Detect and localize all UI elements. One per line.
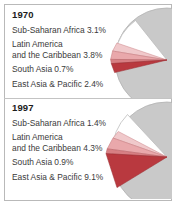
legend-text-1970: 1970 Sub-Saharan Africa 3.1% Latin Ameri…: [12, 4, 116, 89]
legend-entry-east-asia-pacific-1970: East Asia & Pacific 2.4%: [12, 79, 116, 89]
legend-text-1997: 1997 Sub-Saharan Africa 1.4% Latin Ameri…: [12, 99, 116, 182]
wedge-east-asia-pacific-1970: [111, 60, 167, 73]
disc-background-1997: [112, 102, 177, 201]
wedge-latin-america-1970: [111, 51, 167, 60]
legend-entry-south-asia-1997: South Asia 0.9%: [12, 157, 116, 167]
panel-year-1970: 1970: [12, 9, 116, 21]
disc-cut-arc-1970: [115, 20, 167, 60]
legend-entry-sub-saharan-africa-1997: Sub-Saharan Africa 1.4%: [12, 118, 116, 128]
legend-entry-south-asia-1970: South Asia 0.7%: [12, 64, 116, 74]
legend-entry-latin-america-1997: Latin America and the Caribbean 4.3%: [12, 132, 116, 153]
wedge-sub-saharan-africa-1970: [113, 43, 167, 60]
wedge-latin-america-1997: [107, 138, 167, 157]
disc-background-1970: [115, 8, 177, 98]
panel-year-1997: 1997: [12, 102, 116, 114]
legend-entry-east-asia-pacific-1997: East Asia & Pacific 9.1%: [12, 172, 116, 182]
figure-root: 1970 Sub-Saharan Africa 3.1% Latin Ameri…: [0, 0, 177, 208]
panel-1997: 1997 Sub-Saharan Africa 1.4% Latin Ameri…: [0, 99, 177, 201]
disc-cut-arc-1997: [112, 115, 167, 158]
legend-entry-latin-america-1970: Latin America and the Caribbean 3.8%: [12, 39, 116, 60]
panel-1970: 1970 Sub-Saharan Africa 3.1% Latin Ameri…: [0, 4, 177, 98]
wedge-south-asia-1970: [111, 59, 167, 63]
wedge-sub-saharan-africa-1997: [113, 132, 167, 158]
legend-entry-sub-saharan-africa-1970: Sub-Saharan Africa 3.1%: [12, 25, 116, 35]
